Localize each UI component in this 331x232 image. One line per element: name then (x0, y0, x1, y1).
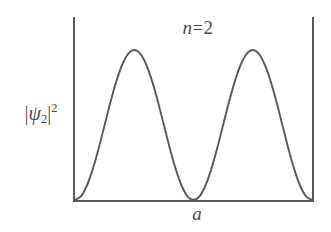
plot-title-variable: n (182, 17, 192, 38)
y-axis-label: |ψ2|2 (12, 96, 70, 131)
plot-title-value: 2 (204, 17, 214, 38)
plot-title: n=2 (148, 17, 248, 39)
y-label-psi: ψ (29, 102, 41, 124)
plot-title-equals: = (192, 17, 203, 38)
y-label-exponent: 2 (51, 101, 57, 115)
x-axis-label: a (172, 203, 222, 225)
